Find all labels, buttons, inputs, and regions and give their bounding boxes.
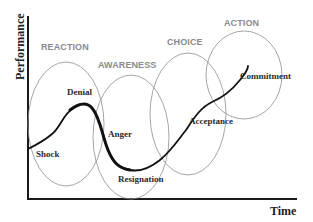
phase-label-choice: CHOICE: [167, 37, 203, 47]
stage-label-shock: Shock: [36, 149, 60, 159]
phase-label-awareness: AWARENESS: [98, 60, 156, 70]
stage-label-anger: Anger: [108, 129, 132, 139]
y-axis-label: Performance: [13, 13, 27, 80]
stage-label-commitment: Commitment: [240, 71, 291, 81]
change-curve-diagram: Performance Time REACTIONAWARENESSCHOICE…: [0, 0, 313, 222]
diagram-canvas: Performance Time REACTIONAWARENESSCHOICE…: [0, 0, 313, 222]
x-axis-label: Time: [270, 204, 297, 218]
phase-label-reaction: REACTION: [41, 42, 89, 52]
stage-labels: ShockDenialAngerResignationAcceptanceCom…: [36, 71, 291, 184]
phase-ellipse-reaction: [28, 62, 104, 186]
phase-label-action: ACTION: [224, 18, 259, 28]
stage-label-denial: Denial: [67, 87, 93, 97]
phase-labels: REACTIONAWARENESSCHOICEACTION: [41, 18, 259, 70]
stage-label-acceptance: Acceptance: [189, 116, 233, 126]
phase-ellipse-choice: [150, 53, 226, 175]
stage-label-resignation: Resignation: [118, 174, 164, 184]
